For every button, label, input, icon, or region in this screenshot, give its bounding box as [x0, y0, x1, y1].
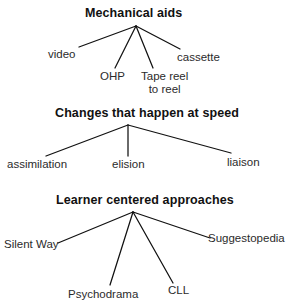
branch-suggestopedia	[133, 212, 210, 238]
leaf-liaison: liaison	[227, 156, 260, 169]
branch-ohp	[115, 26, 136, 68]
branches-changes-at-speed	[46, 125, 231, 156]
diagram-title-changes-at-speed: Changes that happen at speed	[55, 106, 239, 120]
branch-silent-way	[58, 212, 133, 243]
diagram-canvas: Mechanical aids video OHP Tape reel to r…	[0, 0, 296, 307]
diagram-title-mechanical-aids: Mechanical aids	[85, 6, 182, 20]
branch-cll	[133, 212, 173, 283]
branches-learner-centered	[58, 212, 210, 285]
leaf-tape-reel-line1: Tape reel	[141, 70, 188, 82]
leaf-ohp: OHP	[100, 70, 125, 83]
branch-lines-layer	[0, 0, 296, 307]
branch-video	[79, 26, 136, 47]
leaf-tape-reel-line2: to reel	[149, 83, 181, 95]
leaf-video: video	[48, 48, 76, 61]
leaf-tape-reel: Tape reel to reel	[141, 70, 188, 96]
branch-liaison	[128, 125, 231, 153]
diagram-title-learner-centered: Learner centered approaches	[56, 193, 234, 207]
branch-tape-reel	[136, 26, 153, 68]
leaf-psychodrama: Psychodrama	[68, 288, 138, 301]
branch-cassette	[136, 26, 180, 49]
leaf-cll: CLL	[168, 284, 189, 297]
leaf-suggestopedia: Suggestopedia	[208, 232, 285, 245]
branch-psychodrama	[110, 212, 133, 285]
leaf-elision: elision	[112, 158, 145, 171]
leaf-assimilation: assimilation	[7, 158, 67, 171]
leaf-silent-way: Silent Way	[4, 238, 59, 251]
branches-mechanical-aids	[79, 26, 180, 68]
branch-assimilation	[46, 125, 128, 156]
leaf-cassette: cassette	[177, 51, 220, 64]
